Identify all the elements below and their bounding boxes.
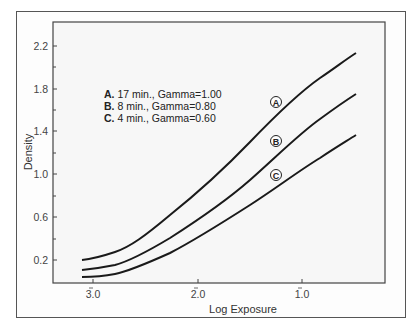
plot-area (53, 22, 385, 283)
y-axis-title: Density (22, 133, 34, 170)
svg-text:C: C (273, 171, 280, 181)
density-chart: 0.2 0.6 1.0 1.4 1.8 2.2 Density 3.0 2.0 … (0, 0, 416, 336)
legend-item-c: C. 4 min., Gamma=0.60 (104, 112, 222, 124)
marker-b: B (271, 136, 282, 147)
y-tick-label: 1.8 (33, 83, 48, 95)
x-tick-label: 3.0 (86, 288, 101, 300)
x-tick-label: 1.0 (295, 288, 310, 300)
svg-text:B: B (273, 137, 280, 147)
y-tick-label: 0.2 (33, 254, 48, 266)
y-tick-label: 1.4 (33, 125, 48, 137)
marker-a: A (271, 97, 282, 108)
y-tick-label: 1.0 (33, 168, 48, 180)
y-tick-label: 0.6 (33, 211, 48, 223)
y-tick-label: 2.2 (33, 40, 48, 52)
x-axis-title: Log Exposure (209, 303, 277, 315)
svg-text:A: A (273, 98, 280, 108)
x-tick-label: 2.0 (191, 288, 206, 300)
legend-item-a: A. 17 min., Gamma=1.00 (104, 88, 222, 100)
marker-c: C (271, 170, 282, 181)
legend-item-b: B. 8 min., Gamma=0.80 (104, 100, 222, 112)
legend: A. 17 min., Gamma=1.00 B. 8 min., Gamma=… (104, 88, 222, 124)
